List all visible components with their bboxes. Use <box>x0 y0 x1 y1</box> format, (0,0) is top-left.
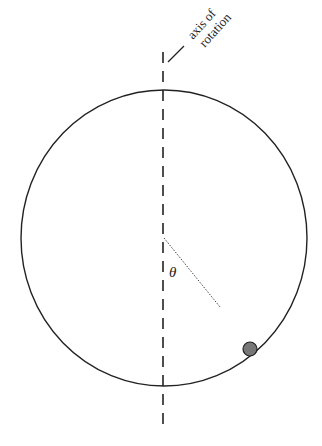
theta-label: θ <box>169 264 177 280</box>
axis-label-leader <box>168 46 184 62</box>
axis-label: axis of rotation <box>184 0 234 51</box>
bead <box>243 342 257 356</box>
hoop-diagram: axis of rotation θ <box>0 0 322 446</box>
